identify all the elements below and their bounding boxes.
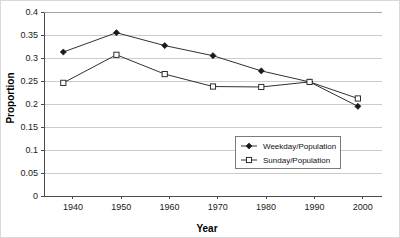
y-axis-title: Proportion: [5, 72, 16, 123]
data-point-marker: [114, 52, 119, 57]
series-markers-group: [60, 30, 361, 110]
chart-legend: Weekday/PopulationSunday/Population: [235, 136, 340, 168]
data-point-marker: [307, 79, 312, 84]
data-point-marker: [210, 84, 215, 89]
x-axis-ticks: 1940195019601970198019902000: [63, 196, 373, 212]
x-tick-label: 1990: [304, 202, 324, 212]
chart-screenshot: 00.050.10.150.20.250.30.350.4 1940195019…: [0, 0, 400, 238]
series-line-1: [63, 33, 358, 107]
data-point-marker: [259, 84, 264, 89]
plot-canvas: 00.050.10.150.20.250.30.350.4 1940195019…: [0, 0, 400, 238]
x-tick-label: 1960: [160, 202, 180, 212]
x-tick-label: 1940: [63, 202, 83, 212]
y-tick-label: 0.1: [25, 145, 38, 155]
legend-label-1: Weekday/Population: [263, 142, 336, 151]
y-tick-label: 0.2: [25, 99, 38, 109]
y-tick-label: 0.15: [20, 122, 38, 132]
y-tick-label: 0.4: [25, 7, 38, 17]
data-point-marker: [162, 42, 168, 48]
y-tick-label: 0.05: [20, 168, 38, 178]
y-tick-label: 0: [33, 191, 38, 201]
y-tick-label: 0.25: [20, 76, 38, 86]
line-chart: 00.050.10.150.20.250.30.350.4 1940195019…: [0, 0, 400, 238]
x-tick-label: 2000: [353, 202, 373, 212]
y-tick-label: 0.3: [25, 53, 38, 63]
legend-marker-square-icon: [246, 157, 251, 162]
x-tick-label: 1950: [111, 202, 131, 212]
x-axis-title: Year: [196, 223, 217, 234]
y-tick-label: 0.35: [20, 30, 38, 40]
y-axis-ticks: 00.050.10.150.20.250.30.350.4: [20, 7, 44, 201]
legend-label-2: Sunday/Population: [263, 156, 330, 165]
series-line-2: [63, 55, 358, 99]
data-point-marker: [258, 68, 264, 74]
series-lines-group: [63, 33, 358, 107]
data-point-marker: [60, 49, 66, 55]
data-point-marker: [162, 72, 167, 77]
data-point-marker: [61, 80, 66, 85]
x-tick-label: 1980: [256, 202, 276, 212]
x-tick-label: 1970: [208, 202, 228, 212]
data-point-marker: [355, 96, 360, 101]
